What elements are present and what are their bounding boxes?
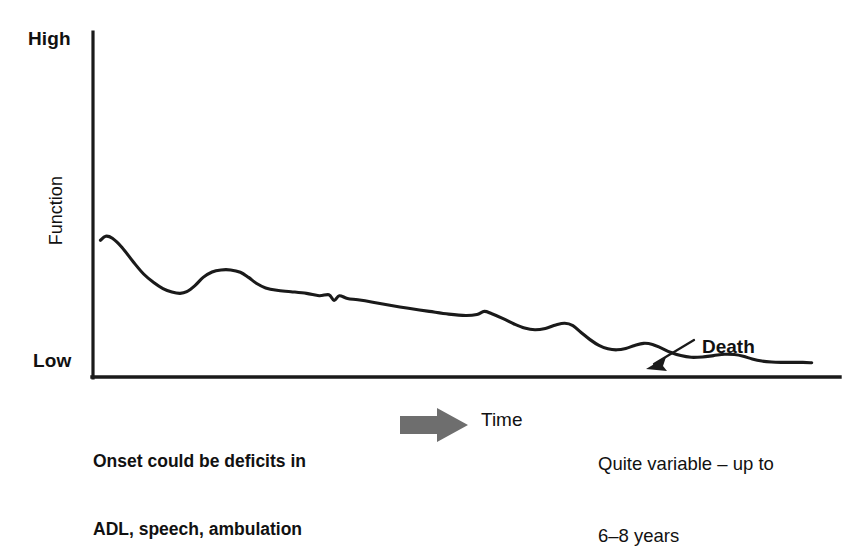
axis-label-high: High (28, 28, 71, 50)
time-block-arrow (400, 408, 468, 442)
time-axis-label: Time (481, 409, 523, 431)
axis-label-low: Low (33, 350, 71, 372)
death-label: Death (702, 336, 755, 358)
onset-caption-line-2: ADL, speech, ambulation (93, 518, 306, 541)
onset-caption: Onset could be deficits in ADL, speech, … (93, 404, 306, 550)
axis-title-function: Function (46, 151, 67, 271)
duration-caption-line-1: Quite variable – up to (598, 452, 774, 476)
onset-caption-line-1: Onset could be deficits in (93, 450, 306, 473)
duration-caption: Quite variable – up to 6–8 years (598, 404, 774, 550)
duration-caption-line-2: 6–8 years (598, 524, 774, 548)
